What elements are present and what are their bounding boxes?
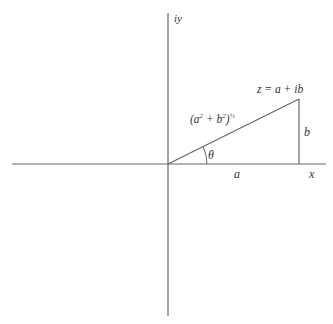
complex-plane-diagram: iy x z = a + ib b a θ (a2 + b2)½ [0, 0, 333, 324]
x-axis-label: x [308, 167, 315, 181]
horizontal-segment-label: a [234, 167, 240, 181]
angle-arc [203, 147, 207, 164]
y-axis-label: iy [174, 12, 182, 24]
vertical-segment-label: b [304, 125, 310, 139]
point-label: z = a + ib [256, 83, 303, 95]
angle-label: θ [208, 148, 214, 162]
hypotenuse-label: (a2 + b2)½ [190, 112, 236, 126]
hypotenuse-line [168, 99, 299, 164]
